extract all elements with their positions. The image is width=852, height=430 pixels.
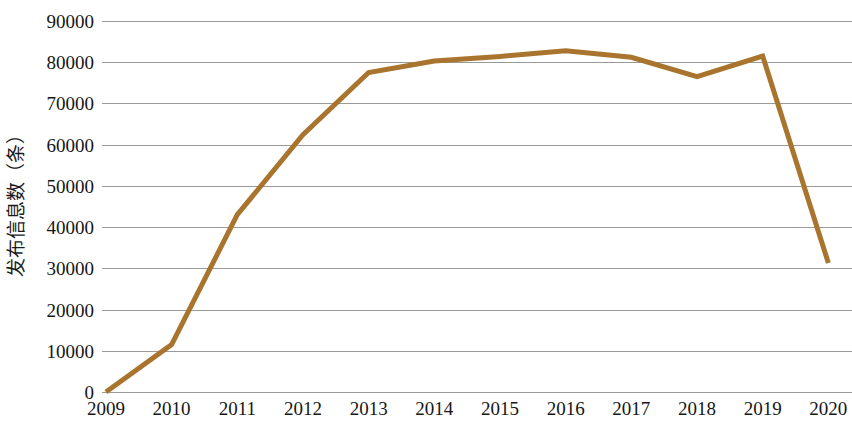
y-tick-label-50000: 50000 [18,176,94,195]
x-tick-label-2017: 2017 [612,398,650,420]
y-tick-label-90000: 90000 [18,12,94,31]
x-tick-label-2013: 2013 [350,398,388,420]
x-tick-label-2020: 2020 [809,398,847,420]
y-tick-label-70000: 70000 [18,94,94,113]
x-tick-label-2016: 2016 [547,398,585,420]
y-tick-label-60000: 60000 [18,135,94,154]
y-tick-label-40000: 40000 [18,218,94,237]
y-tick-label-20000: 20000 [18,300,94,319]
series-line-layer [102,0,852,430]
x-tick-label-2010: 2010 [153,398,191,420]
y-tick-label-30000: 30000 [18,259,94,278]
x-tick-label-2018: 2018 [678,398,716,420]
y-tick-label-10000: 10000 [18,341,94,360]
x-tick-label-2015: 2015 [481,398,519,420]
plot-area [102,0,852,430]
y-axis-tick-labels: 0100002000030000400005000060000700008000… [14,0,94,430]
x-tick-label-2012: 2012 [284,398,322,420]
y-tick-label-80000: 80000 [18,53,94,72]
x-tick-label-2009: 2009 [87,398,125,420]
x-tick-label-2014: 2014 [415,398,453,420]
x-tick-label-2011: 2011 [219,398,256,420]
line-chart: 发布信息数（条） 0100002000030000400005000060000… [0,0,852,430]
x-tick-label-2019: 2019 [744,398,782,420]
y-tick-label-0: 0 [18,383,94,402]
series-line-发布信息数 [106,51,828,392]
x-axis-tick-labels: 2009201020112012201320142015201620172018… [102,398,852,430]
